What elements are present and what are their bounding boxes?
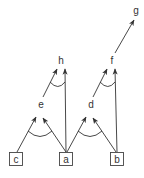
- and-arc-e: [28, 131, 52, 137]
- node-label-g: g: [133, 5, 139, 16]
- edge-b-f: [115, 69, 117, 152]
- node-label-h: h: [58, 55, 64, 66]
- node-label-a: a: [63, 154, 69, 165]
- node-label-f: f: [111, 55, 114, 66]
- node-label-b: b: [114, 154, 120, 165]
- edge-f-g: [115, 20, 134, 53]
- edge-d-f: [93, 69, 107, 97]
- and-arc-d: [78, 131, 102, 137]
- node-label-d: d: [88, 99, 94, 110]
- and-arc-f: [100, 82, 115, 87]
- edge-a-h: [65, 69, 66, 152]
- node-label-c: c: [14, 154, 19, 165]
- and-arc-h: [50, 82, 65, 87]
- and-or-graph: c a b e d h f g: [0, 0, 144, 178]
- edge-e-h: [43, 69, 57, 97]
- node-label-e: e: [38, 99, 44, 110]
